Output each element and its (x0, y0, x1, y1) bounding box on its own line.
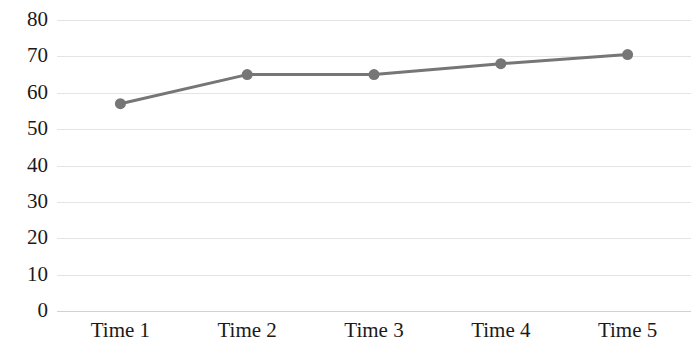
y-tick-label: 80 (0, 9, 48, 30)
y-tick-label: 70 (0, 45, 48, 66)
x-tick-label: Time 3 (344, 318, 403, 342)
y-tick-label: 60 (0, 82, 48, 103)
series-layer (57, 0, 691, 345)
y-tick-label: 0 (0, 300, 48, 321)
y-tick-label: 30 (0, 191, 48, 212)
data-point-marker (369, 69, 380, 80)
y-tick-label: 10 (0, 264, 48, 285)
x-tick-label: Time 1 (91, 318, 150, 342)
plot-area (57, 0, 691, 345)
data-point-marker (242, 69, 253, 80)
x-tick-label: Time 2 (218, 318, 277, 342)
y-axis: 01020304050607080 (0, 0, 48, 345)
data-point-marker (115, 98, 126, 109)
data-point-marker (622, 49, 633, 60)
x-axis: Time 1Time 2Time 3Time 4Time 5 (57, 318, 691, 345)
y-tick-label: 20 (0, 227, 48, 248)
line-chart: 01020304050607080 Time 1Time 2Time 3Time… (0, 0, 697, 345)
y-tick-label: 50 (0, 118, 48, 139)
x-tick-label: Time 5 (598, 318, 657, 342)
x-tick-label: Time 4 (471, 318, 530, 342)
y-tick-label: 40 (0, 155, 48, 176)
data-point-marker (495, 58, 506, 69)
series-markers-1 (115, 49, 633, 109)
